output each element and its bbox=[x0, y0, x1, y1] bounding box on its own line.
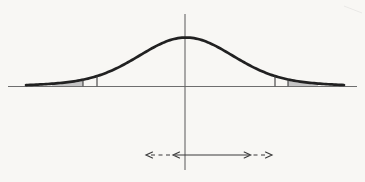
normal-curve-figure bbox=[0, 0, 365, 182]
figure-page bbox=[0, 0, 365, 182]
